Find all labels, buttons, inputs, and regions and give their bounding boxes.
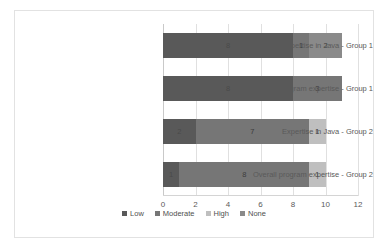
bar-segment-low[interactable]: 1 [163,162,179,187]
bar-segment-value-label: 8 [226,85,230,93]
x-tick-label: 2 [193,200,197,209]
x-tick-label: 0 [161,200,165,209]
category-label: Overall program expertise - Group 2 [233,170,373,179]
bar-segment-value-label: 8 [226,42,230,50]
legend-item-high[interactable]: High [206,209,229,218]
legend-label: Low [130,209,144,218]
legend-swatch-icon [122,211,127,216]
legend-label: None [248,209,266,218]
chart-container: 81283271181 Expertise in Java - Group 1O… [14,10,374,238]
bar-segment-value-label: 1 [169,171,173,179]
x-tick-label: 4 [226,200,230,209]
legend-swatch-icon [240,211,245,216]
chart-legend: LowModerateHighNone [15,209,373,218]
legend-label: Moderate [163,209,195,218]
legend-item-moderate[interactable]: Moderate [155,209,195,218]
legend-swatch-icon [206,211,211,216]
x-tick-label: 12 [354,200,363,209]
x-axis-line [163,195,358,196]
category-label: Expertise in Java - Group 1 [233,41,373,50]
x-tick-label: 10 [321,200,330,209]
x-tick-label: 6 [258,200,262,209]
bar-segment-low[interactable]: 2 [163,119,196,144]
bar-segment-value-label: 2 [177,128,181,136]
legend-label: High [214,209,229,218]
x-tick-label: 8 [291,200,295,209]
legend-swatch-icon [155,211,160,216]
legend-item-low[interactable]: Low [122,209,144,218]
category-label: Expertise in Java - Group 2 [233,127,373,136]
category-label: Overall program expertise - Group 1 [233,84,373,93]
legend-item-none[interactable]: None [240,209,266,218]
